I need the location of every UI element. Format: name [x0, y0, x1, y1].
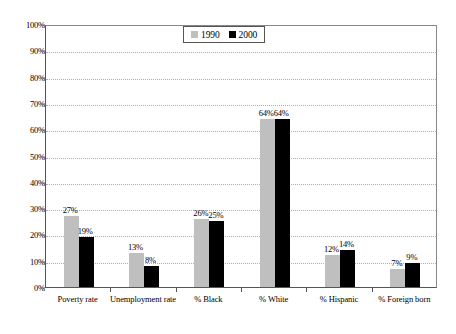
bar-value-label: 9%	[406, 252, 417, 262]
x-axis-tick-mark	[306, 288, 307, 292]
y-axis-tick-label: 80%	[5, 73, 45, 83]
bar-value-label: 8%	[145, 255, 156, 265]
gridline	[46, 210, 436, 211]
chart-legend: 19902000	[183, 26, 265, 43]
x-axis-tick-mark	[110, 288, 111, 292]
bar-group	[194, 26, 224, 287]
bar-2000	[144, 266, 159, 287]
bar-1990	[64, 216, 79, 287]
bar-value-label: 14%	[339, 239, 354, 249]
x-axis-category-label: % Black	[171, 294, 245, 305]
bar-1990	[325, 255, 340, 287]
bar-1990	[390, 269, 405, 287]
y-axis-tick-label: 60%	[5, 125, 45, 135]
bar-1990	[129, 253, 144, 287]
bar-chart: 0%10%20%30%40%50%60%70%80%90%100% 199020…	[0, 0, 456, 334]
y-axis-tick-label: 30%	[5, 204, 45, 214]
y-axis-tick-label: 100%	[5, 20, 45, 30]
bar-value-label: 12%	[324, 244, 339, 254]
y-axis-tick-label: 40%	[5, 178, 45, 188]
bar-value-label: 25%	[208, 210, 223, 220]
bar-2000	[79, 237, 94, 287]
bar-group	[64, 26, 94, 287]
bar-group	[390, 26, 420, 287]
bar-value-label: 7%	[391, 258, 402, 268]
plot-area	[45, 25, 437, 288]
x-axis-category-label: Unemployment rate	[106, 294, 180, 305]
bar-group	[260, 26, 290, 287]
y-axis-tick-label: 90%	[5, 46, 45, 56]
x-axis-tick-mark	[241, 288, 242, 292]
bar-value-label: 64%	[274, 108, 289, 118]
y-axis-tick-label: 20%	[5, 230, 45, 240]
legend-swatch-icon	[191, 31, 198, 38]
bar-2000	[275, 119, 290, 287]
x-axis-category-label: Poverty rate	[41, 294, 115, 305]
gridline	[46, 79, 436, 80]
legend-swatch-icon	[229, 31, 236, 38]
bar-2000	[340, 250, 355, 287]
y-axis-tick-label: 50%	[5, 152, 45, 162]
gridline	[46, 105, 436, 106]
bar-2000	[405, 263, 420, 287]
x-axis-tick-mark	[372, 288, 373, 292]
gridline	[46, 184, 436, 185]
x-axis-category-label: % Hispanic	[302, 294, 376, 305]
y-axis-tick-label: 70%	[5, 99, 45, 109]
x-axis-category-label: % Foreign born	[367, 294, 441, 305]
bar-2000	[209, 221, 224, 287]
y-axis: 0%10%20%30%40%50%60%70%80%90%100%	[0, 0, 45, 334]
bar-value-label: 27%	[63, 205, 78, 215]
y-axis-tick-label: 10%	[5, 257, 45, 267]
x-axis-category-label: % White	[237, 294, 311, 305]
gridline	[46, 52, 436, 53]
legend-label: 2000	[239, 30, 258, 40]
gridline	[46, 263, 436, 264]
legend-entry: 2000	[229, 30, 258, 40]
bar-value-label: 26%	[193, 208, 208, 218]
bar-value-label: 64%	[259, 108, 274, 118]
bar-value-label: 13%	[128, 242, 143, 252]
bar-value-label: 19%	[78, 226, 93, 236]
gridline	[46, 158, 436, 159]
legend-label: 1990	[201, 30, 220, 40]
bar-1990	[260, 119, 275, 287]
legend-entry: 1990	[191, 30, 220, 40]
gridline	[46, 131, 436, 132]
x-axis-tick-mark	[176, 288, 177, 292]
y-axis-tick-label: 0%	[5, 283, 45, 293]
gridline	[46, 236, 436, 237]
bar-1990	[194, 219, 209, 287]
